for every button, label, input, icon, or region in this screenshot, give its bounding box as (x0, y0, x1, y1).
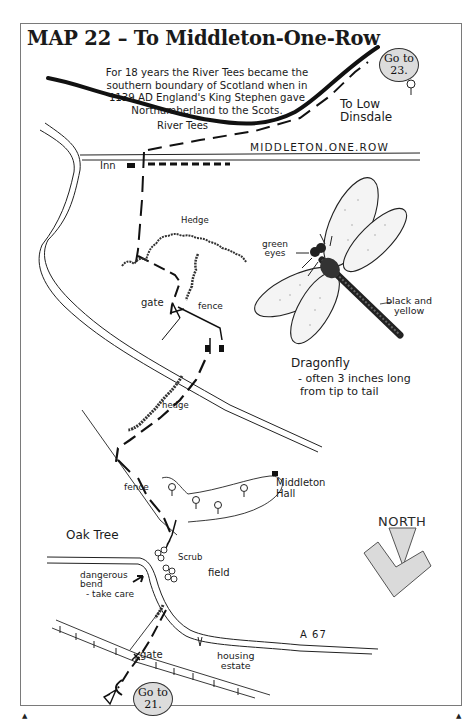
goto-target: 21. (134, 699, 172, 711)
dangerous-bend-arrow (133, 576, 143, 582)
crop-mark-right: ▲ (456, 712, 461, 720)
goto-map-23-button[interactable]: Go to 23. (379, 48, 419, 82)
history-note-line: Northumberland to the Scots. (84, 105, 330, 118)
label-inn: Inn (100, 161, 116, 172)
building-marker-b (219, 345, 224, 352)
goto-map-21-button[interactable]: Go to 21. (133, 682, 173, 716)
inn-marker (127, 163, 135, 168)
hedge-row-upper (122, 234, 246, 266)
tree-icon-dinsdale (407, 80, 415, 95)
label-to-low-dinsdale: To Low Dinsdale (340, 98, 392, 123)
label-gate-lower: gate (140, 650, 163, 661)
exit-arrow-icon (104, 690, 116, 704)
label-line: - take care (80, 590, 134, 599)
label-green-eyes: green eyes (262, 240, 288, 259)
tree-icons-hall (169, 484, 248, 515)
label-oak-tree: Oak Tree (66, 529, 119, 542)
label-line: Hall (276, 489, 325, 500)
village-road-top (80, 153, 420, 155)
scrub-clusters (155, 547, 177, 582)
label-gate-upper: gate (141, 298, 164, 309)
middleton-hall-marker (272, 471, 278, 476)
footpath-to-gate (138, 256, 180, 320)
history-note-line: For 18 years the River Tees became the (84, 67, 330, 80)
history-note-line: southern boundary of Scotland when in (84, 80, 330, 93)
label-hedge-upper: Hedge (181, 216, 209, 225)
label-black-and-yellow: black and yellow (386, 296, 432, 316)
hall-grounds-boundary (162, 476, 282, 522)
label-river-tees: River Tees (157, 121, 208, 132)
dragonfly-illustration (248, 170, 415, 351)
footpath-south (116, 360, 205, 462)
label-field: field (208, 568, 230, 579)
track-lower (162, 318, 180, 340)
label-line: eyes (262, 249, 288, 258)
label-middleton-one-row: MIDDLETON.ONE.ROW (250, 142, 389, 153)
label-line: To Low (340, 98, 392, 111)
label-hedge-lower: hedge (162, 401, 189, 410)
west-road-a (45, 123, 80, 240)
dragonfly-title: Dragonfly (291, 357, 350, 370)
dragonfly-caption-2: from tip to tail (300, 386, 379, 398)
diagonal-road-b (39, 245, 318, 452)
label-line: Middleton (276, 478, 325, 489)
footpath-main (136, 152, 144, 262)
label-housing-estate: housing estate (217, 651, 255, 671)
compass-label: NORTH (378, 514, 426, 529)
label-dangerous-bend: dangerous bend - take care (80, 571, 134, 599)
north-arrow-icon (364, 528, 431, 597)
fence-upper (178, 307, 222, 340)
label-line: estate (217, 661, 255, 671)
goto-target: 23. (380, 65, 418, 77)
label-line: Dinsdale (340, 111, 392, 124)
label-scrub: Scrub (178, 553, 202, 562)
side-lane (198, 637, 202, 646)
label-a67: A 67 (300, 630, 327, 641)
hedge-row-branch (186, 254, 198, 300)
label-fence-upper: fence (198, 302, 223, 311)
label-fence-lower: fence (124, 483, 149, 492)
history-note: For 18 years the River Tees became the s… (84, 67, 330, 117)
history-note-line: 1139 AD England's King Stephen gave (84, 92, 330, 105)
label-middleton-hall: Middleton Hall (276, 478, 325, 499)
lane-to-gate (130, 608, 162, 650)
west-road-b (40, 130, 74, 245)
label-line: yellow (386, 306, 432, 316)
dragonfly-caption-1: - often 3 inches long (298, 373, 411, 385)
footpath-fence (118, 460, 170, 532)
crop-mark-left: ▲ (22, 712, 27, 720)
